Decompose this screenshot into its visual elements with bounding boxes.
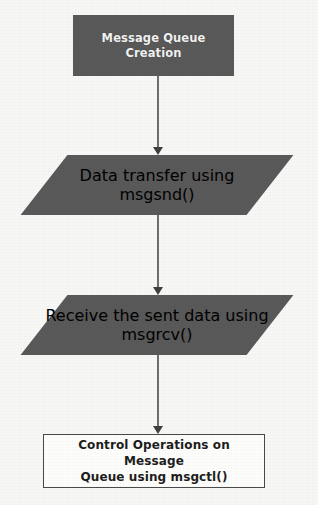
arrow-transfer-to-receive: [157, 215, 159, 295]
arrow-receive-to-control: [157, 355, 159, 434]
node-control-operations-msgctl[interactable]: Control Operations on Message Queue usin…: [43, 434, 265, 488]
node-data-transfer-msgsnd[interactable]: Data transfer using msgsnd(): [44, 155, 270, 215]
node-label-receive-data-msgrcv: Receive the sent data using msgrcv(): [44, 306, 270, 344]
node-label-data-transfer-msgsnd: Data transfer using msgsnd(): [44, 166, 270, 204]
arrow-head-icon: [153, 287, 163, 295]
arrow-creation-to-transfer: [157, 76, 159, 155]
node-label-control-operations-msgctl: Control Operations on Message Queue usin…: [44, 437, 264, 485]
arrow-stem: [157, 215, 159, 288]
flowchart-canvas: Message Queue Creation Data transfer usi…: [0, 0, 318, 505]
node-label-message-queue-creation: Message Queue Creation: [96, 31, 212, 61]
arrow-stem: [157, 76, 159, 148]
arrow-head-icon: [153, 426, 163, 434]
arrow-stem: [157, 355, 159, 427]
arrow-head-icon: [153, 147, 163, 155]
node-receive-data-msgrcv[interactable]: Receive the sent data using msgrcv(): [44, 295, 270, 355]
node-message-queue-creation[interactable]: Message Queue Creation: [73, 15, 234, 76]
